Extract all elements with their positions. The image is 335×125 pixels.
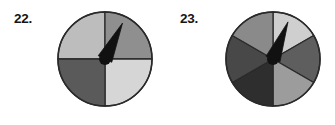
spinner-22[interactable] [55, 9, 155, 109]
problem-22: 22. [0, 0, 168, 125]
problem-number-label: 22. [14, 12, 32, 26]
spinner-hub [99, 53, 111, 65]
problem-number-label: 23. [180, 12, 198, 26]
problem-23: 23. [167, 0, 335, 125]
spinner-22-graphic [55, 9, 155, 109]
spinner-23-graphic [223, 9, 323, 109]
worksheet-page: 22. 23. [0, 0, 335, 125]
spinner-23[interactable] [223, 9, 323, 109]
spinner-hub [267, 53, 279, 65]
